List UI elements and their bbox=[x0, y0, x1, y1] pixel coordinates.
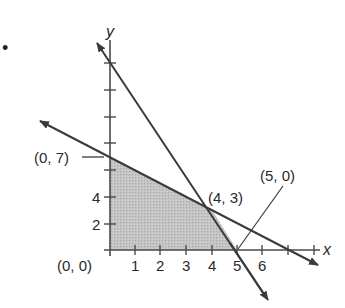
x-tick-label-2: 2 bbox=[156, 258, 164, 273]
y-axis-label: y bbox=[106, 24, 114, 40]
point-label-0-7: (0, 7) bbox=[34, 150, 69, 165]
y-tick-label-4: 4 bbox=[92, 190, 100, 205]
y-tick-label-2: 2 bbox=[92, 217, 100, 232]
x-tick-label-1: 1 bbox=[131, 258, 139, 273]
point-label-0-0: (0, 0) bbox=[57, 258, 92, 273]
x-tick-label-4: 4 bbox=[208, 258, 216, 273]
x-tick-label-6: 6 bbox=[258, 258, 266, 273]
x-axis-label: x bbox=[323, 242, 331, 258]
point-label-4-3: (4, 3) bbox=[208, 190, 243, 205]
point-label-5-0: (5, 0) bbox=[260, 168, 295, 183]
x-tick-label-5: 5 bbox=[233, 258, 241, 273]
x-tick-label-3: 3 bbox=[182, 258, 190, 273]
leader-5-0 bbox=[238, 186, 283, 249]
